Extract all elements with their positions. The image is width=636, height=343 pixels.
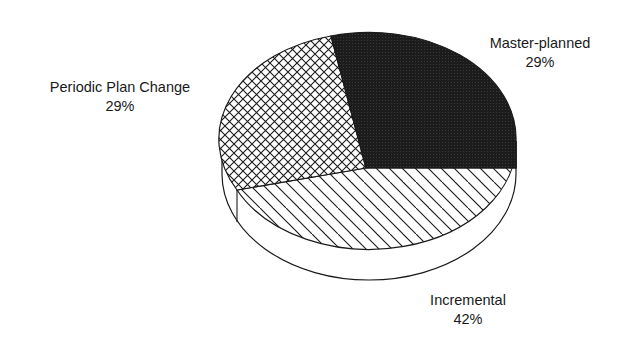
label-incremental: Incremental 42%: [430, 291, 506, 329]
label-master-planned-pct: 29%: [490, 53, 591, 72]
label-master-planned: Master-planned 29%: [490, 34, 591, 72]
label-incremental-pct: 42%: [430, 310, 506, 329]
label-periodic-name: Periodic Plan Change: [50, 78, 190, 97]
label-periodic-plan-change: Periodic Plan Change 29%: [50, 78, 190, 116]
label-periodic-pct: 29%: [50, 97, 190, 116]
label-incremental-name: Incremental: [430, 291, 506, 310]
label-master-planned-name: Master-planned: [490, 34, 591, 53]
